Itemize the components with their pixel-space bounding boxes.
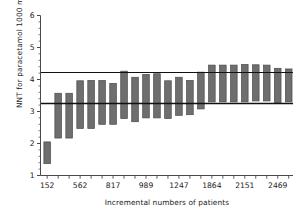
bar (274, 68, 281, 102)
bar (77, 81, 84, 129)
bar (231, 65, 238, 102)
bar (121, 71, 128, 118)
bar (285, 69, 292, 102)
bar (132, 77, 139, 121)
y-tick-label: 5 (19, 43, 35, 52)
y-tick-label: 1 (19, 171, 35, 180)
bar (55, 93, 62, 138)
chart-container: NNT for paracetamol 1000 mg Incremental … (0, 0, 299, 213)
bar (220, 65, 227, 102)
x-tick-label: 2151 (230, 181, 260, 190)
bar (187, 80, 194, 114)
bar (154, 74, 161, 118)
bar (143, 74, 150, 118)
x-tick-label: 989 (131, 181, 161, 190)
y-tick-label: 2 (19, 139, 35, 148)
y-tick-label: 3 (19, 107, 35, 116)
x-tick-label: 817 (98, 181, 128, 190)
bar (242, 64, 249, 101)
bar (66, 93, 73, 138)
x-axis-title: Incremental numbers of patients (38, 198, 296, 207)
x-tick-label: 1247 (164, 181, 194, 190)
bar (252, 65, 259, 101)
bar (263, 65, 270, 101)
x-tick-label: 562 (65, 181, 95, 190)
x-tick-label: 2469 (263, 181, 293, 190)
bar (99, 80, 106, 124)
x-tick-label: 152 (32, 181, 62, 190)
bar (165, 81, 172, 119)
y-tick-label: 6 (19, 11, 35, 20)
x-tick-label: 1864 (197, 181, 227, 190)
y-ticks-group (37, 16, 41, 176)
bar (176, 77, 183, 115)
bar (88, 80, 95, 128)
bar (44, 142, 51, 164)
bars-group (44, 64, 292, 163)
bar (209, 65, 216, 102)
y-tick-label: 4 (19, 75, 35, 84)
